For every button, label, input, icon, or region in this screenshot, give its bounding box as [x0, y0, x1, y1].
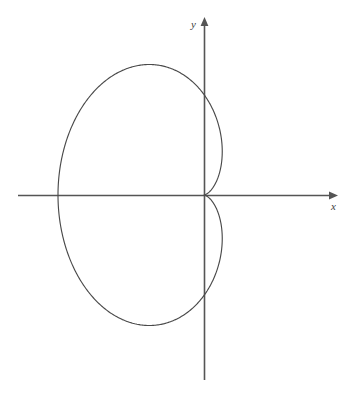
- y-axis-label: y: [190, 18, 196, 30]
- x-axis: x: [18, 192, 338, 212]
- y-axis-arrowhead-icon: [201, 17, 209, 26]
- y-axis: y: [190, 17, 208, 380]
- x-axis-label: x: [330, 200, 336, 212]
- cardioid-figure: x y: [0, 0, 355, 402]
- polar-plot-canvas: x y: [0, 0, 355, 402]
- x-axis-arrowhead-icon: [329, 192, 338, 200]
